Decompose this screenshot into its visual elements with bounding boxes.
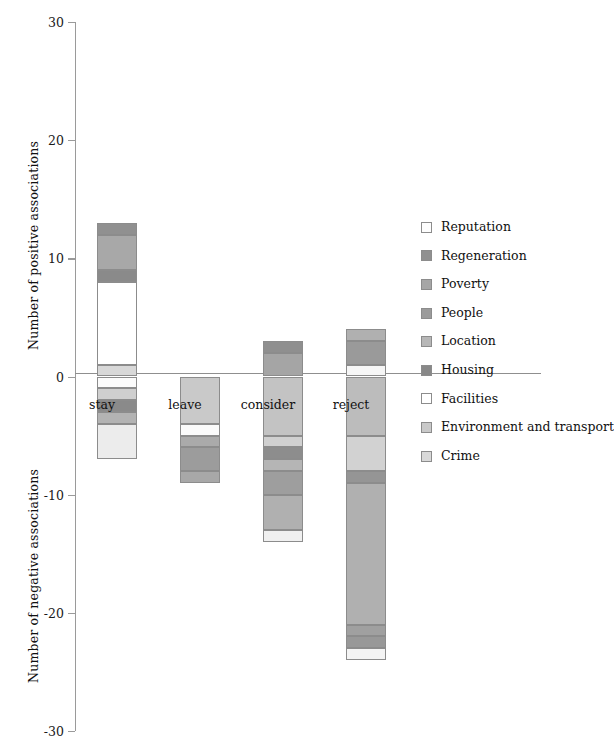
bar-segment[interactable] (180, 436, 220, 448)
legend-label: Housing (441, 364, 494, 377)
y-axis-tick (68, 377, 75, 378)
chart-legend: ReputationRegenerationPovertyPeopleLocat… (421, 213, 593, 470)
y-axis-tick (68, 140, 75, 141)
bar-segment[interactable] (346, 341, 386, 365)
legend-swatch-icon (421, 336, 432, 347)
x-axis-category-label: reject (296, 397, 406, 412)
legend-item[interactable]: Facilities (421, 385, 593, 414)
legend-item[interactable]: Housing (421, 356, 593, 385)
y-axis-tick-label: -30 (0, 731, 64, 732)
bar-segment[interactable] (346, 636, 386, 648)
bar-segment[interactable] (97, 270, 137, 282)
legend-item[interactable]: Crime (421, 442, 593, 471)
bar-segment[interactable] (346, 625, 386, 637)
bar-segment[interactable] (97, 412, 137, 424)
bar-column-reject[interactable] (346, 22, 386, 731)
legend-label: Facilities (441, 393, 498, 406)
bar-segment[interactable] (180, 471, 220, 483)
bar-column-leave[interactable] (180, 22, 220, 731)
bar-segment[interactable] (263, 471, 303, 495)
bar-segment[interactable] (263, 447, 303, 459)
legend-swatch-icon (421, 250, 432, 261)
bar-segment[interactable] (346, 329, 386, 341)
bar-segment[interactable] (180, 424, 220, 436)
legend-swatch-icon (421, 222, 432, 233)
bar-segment[interactable] (263, 495, 303, 530)
bar-segment[interactable] (263, 341, 303, 353)
y-axis-title-positive: Number of positive associations (26, 141, 41, 350)
legend-item[interactable]: Poverty (421, 270, 593, 299)
y-axis-tick (68, 22, 75, 23)
bar-column-stay[interactable] (97, 22, 137, 731)
y-axis-tick-label: 10 (0, 258, 64, 259)
bar-segment[interactable] (97, 282, 137, 365)
legend-swatch-icon (421, 393, 432, 404)
legend-label: Crime (441, 450, 480, 463)
y-axis-tick (68, 495, 75, 496)
bar-segment[interactable] (97, 365, 137, 377)
bar-segment[interactable] (346, 471, 386, 483)
legend-swatch-icon (421, 451, 432, 462)
legend-label: Reputation (441, 221, 511, 234)
bar-segment[interactable] (263, 530, 303, 542)
y-axis-tick-label: -10 (0, 495, 64, 496)
y-axis-tick-label: -20 (0, 613, 64, 614)
bar-segment[interactable] (97, 377, 137, 389)
legend-item[interactable]: Location (421, 327, 593, 356)
bar-segment[interactable] (346, 648, 386, 660)
bar-segment[interactable] (346, 365, 386, 377)
bar-segment[interactable] (263, 353, 303, 377)
bar-segment[interactable] (346, 483, 386, 625)
legend-label: Poverty (441, 278, 489, 291)
legend-item[interactable]: Reputation (421, 213, 593, 242)
bar-segment[interactable] (346, 436, 386, 471)
bar-segment[interactable] (97, 235, 137, 270)
legend-label: Regeneration (441, 250, 527, 263)
legend-label: People (441, 307, 483, 320)
y-axis-tick-label: 0 (0, 377, 64, 378)
bar-segment[interactable] (97, 424, 137, 459)
bar-column-consider[interactable] (263, 22, 303, 731)
y-axis-tick-label: 30 (0, 22, 64, 23)
legend-swatch-icon (421, 308, 432, 319)
legend-item[interactable]: People (421, 299, 593, 328)
legend-swatch-icon (421, 422, 432, 433)
legend-swatch-icon (421, 365, 432, 376)
bar-segment[interactable] (263, 459, 303, 471)
y-axis-title-negative: Number of negative associations (26, 469, 41, 683)
legend-label: Location (441, 335, 496, 348)
bar-segment[interactable] (97, 223, 137, 235)
legend-item[interactable]: Regeneration (421, 242, 593, 271)
legend-swatch-icon (421, 279, 432, 290)
y-axis-tick-label: 20 (0, 140, 64, 141)
bar-segment[interactable] (180, 447, 220, 471)
legend-label: Environment and transport (441, 421, 614, 434)
y-axis-tick (68, 258, 75, 259)
bar-segment[interactable] (263, 436, 303, 448)
legend-item[interactable]: Environment and transport (421, 413, 593, 442)
y-axis-tick (68, 731, 75, 732)
y-axis-tick (68, 613, 75, 614)
